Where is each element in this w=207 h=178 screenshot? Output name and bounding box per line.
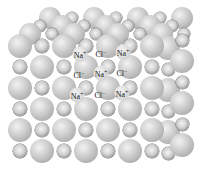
- sodium-sphere: [176, 118, 189, 131]
- sodium-sphere: [13, 144, 27, 158]
- sodium-sphere: [35, 39, 49, 53]
- chloride-sphere: [118, 97, 142, 121]
- chloride-sphere: [140, 76, 164, 100]
- chloride-sphere: [170, 133, 194, 157]
- ion-label-sodium: Na+: [74, 49, 87, 60]
- sodium-sphere: [57, 102, 71, 116]
- sodium-sphere: [176, 34, 189, 47]
- sodium-sphere: [79, 123, 93, 137]
- sodium-sphere: [35, 123, 49, 137]
- sodium-sphere: [35, 81, 49, 95]
- chloride-sphere: [170, 49, 194, 73]
- chloride-sphere: [8, 118, 32, 142]
- chloride-sphere: [30, 139, 54, 163]
- ion-label-chloride: Cl−: [74, 69, 85, 80]
- sodium-sphere: [145, 144, 159, 158]
- chloride-sphere: [170, 91, 194, 115]
- sodium-sphere: [101, 102, 115, 116]
- ion-label-chloride: Cl−: [117, 67, 128, 78]
- chloride-sphere: [140, 118, 164, 142]
- ion-label-chloride: Cl−: [95, 89, 106, 100]
- chloride-sphere: [96, 118, 120, 142]
- sodium-sphere: [145, 60, 159, 74]
- chloride-sphere: [74, 139, 98, 163]
- chloride-sphere: [30, 55, 54, 79]
- sodium-sphere: [13, 102, 27, 116]
- ion-label-sodium: Na+: [95, 68, 108, 79]
- ion-label-sodium: Na+: [117, 47, 130, 58]
- sodium-sphere: [57, 60, 71, 74]
- chloride-sphere: [140, 34, 164, 58]
- sodium-sphere: [101, 144, 115, 158]
- ion-label-chloride: Cl−: [96, 48, 107, 59]
- sodium-sphere: [57, 144, 71, 158]
- ion-label-sodium: Na+: [116, 88, 129, 99]
- chloride-sphere: [8, 34, 32, 58]
- sodium-sphere: [123, 123, 137, 137]
- chloride-sphere: [8, 76, 32, 100]
- chloride-sphere: [52, 118, 76, 142]
- nacl-crystal-lattice-figure: Na+ Cl− Na+ Cl− Na+ Cl− Na+ Cl− Na+: [0, 0, 207, 178]
- chloride-sphere: [118, 139, 142, 163]
- ion-label-sodium: Na+: [71, 90, 84, 101]
- sodium-sphere: [145, 102, 159, 116]
- sodium-sphere: [13, 60, 27, 74]
- chloride-sphere: [30, 97, 54, 121]
- sodium-sphere: [176, 76, 189, 89]
